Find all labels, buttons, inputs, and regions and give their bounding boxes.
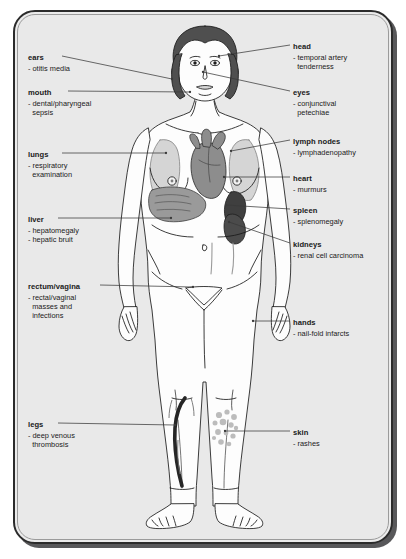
leader-dot-spleen (225, 204, 227, 206)
label-title-head: head (293, 42, 347, 51)
hand-left (119, 307, 138, 341)
label-item-lymph-nodes-0: - lymphadenopathy (293, 148, 356, 157)
label-item-eyes-0: - conjunctival (293, 99, 336, 108)
pupil-right (213, 61, 216, 64)
leader-dot-head (218, 55, 220, 57)
label-head: head- temporal arterytenderness (293, 42, 347, 71)
label-skin: skin- rashes (293, 428, 320, 448)
diagram-canvas: ears- otitis mediamouth- dental/pharynge… (0, 0, 406, 559)
leader-dot-kidneys (228, 221, 230, 223)
leader-dot-eyes (202, 71, 204, 73)
leader-dot-rectum-vagina (192, 286, 194, 288)
leader-dot-legs (174, 424, 176, 426)
mouth (197, 86, 213, 90)
label-item-rectum-vagina-1: masses and (28, 302, 80, 311)
label-title-heart: heart (293, 174, 327, 183)
label-item-mouth-1: sepsis (28, 108, 91, 117)
label-title-mouth: mouth (28, 88, 91, 97)
leader-dot-liver (170, 217, 172, 219)
anatomical-figure (118, 26, 291, 529)
leader-dot-ears (171, 78, 173, 80)
label-item-ears-0: - otitis media (28, 64, 70, 73)
label-title-spleen: spleen (293, 206, 343, 215)
label-title-rectum-vagina: rectum/vagina (28, 282, 80, 291)
hand-right (271, 307, 290, 341)
leader-dot-skin (224, 430, 226, 432)
label-lymph-nodes: lymph nodes- lymphadenopathy (293, 137, 356, 157)
label-rectum-vagina: rectum/vagina- rectal/vaginalmasses andi… (28, 282, 80, 321)
leader-dot-hands (252, 320, 254, 322)
leader-dot-mouth (189, 91, 191, 93)
aorta (202, 129, 212, 147)
label-item-rectum-vagina-0: - rectal/vaginal (28, 293, 80, 302)
label-item-spleen-0: - splenomegaly (293, 217, 343, 226)
leader-line-legs (58, 423, 175, 425)
label-legs: legs- deep venousthrombosis (28, 420, 75, 449)
label-item-liver-0: - hepatomegaly (28, 226, 79, 235)
label-item-mouth-0: - dental/pharyngeal (28, 99, 91, 108)
label-title-liver: liver (28, 215, 79, 224)
label-title-kidneys: kidneys (293, 240, 363, 249)
label-item-kidneys-0: - renal cell carcinoma (293, 251, 363, 260)
pupil-left (193, 61, 196, 64)
body-artwork (0, 0, 406, 559)
foot-left (146, 504, 194, 529)
label-title-lungs: lungs (28, 150, 72, 159)
label-item-hands-0: - nail-fold infarcts (293, 329, 349, 338)
label-item-rectum-vagina-2: infections (28, 311, 80, 320)
label-item-legs-0: - deep venous (28, 431, 75, 440)
foot-right (215, 504, 263, 529)
label-mouth: mouth- dental/pharyngealsepsis (28, 88, 91, 117)
leader-dot-lymph-nodes (230, 150, 232, 152)
label-item-lungs-0: - respiratory (28, 161, 72, 170)
leader-dot-heart (223, 176, 225, 178)
label-ears: ears- otitis media (28, 53, 70, 73)
label-item-head-0: - temporal artery (293, 53, 347, 62)
label-heart: heart- murmurs (293, 174, 327, 194)
label-lungs: lungs- respiratoryexamination (28, 150, 72, 179)
label-title-ears: ears (28, 53, 70, 62)
label-hands: hands- nail-fold infarcts (293, 318, 349, 338)
leader-line-ears (62, 56, 172, 79)
label-title-lymph-nodes: lymph nodes (293, 137, 356, 146)
label-item-liver-1: - hepatic bruit (28, 235, 79, 244)
leader-dot-lungs (165, 152, 167, 154)
label-eyes: eyes- conjunctivalpetechiae (293, 88, 336, 117)
label-item-heart-0: - murmurs (293, 185, 327, 194)
label-title-skin: skin (293, 428, 320, 437)
label-item-skin-0: - rashes (293, 439, 320, 448)
label-item-lungs-1: examination (28, 170, 72, 179)
label-liver: liver- hepatomegaly- hepatic bruit (28, 215, 79, 244)
label-title-hands: hands (293, 318, 349, 327)
label-item-eyes-1: petechiae (293, 108, 336, 117)
label-item-head-1: tenderness (293, 62, 347, 71)
label-spleen: spleen- splenomegaly (293, 206, 343, 226)
label-title-eyes: eyes (293, 88, 336, 97)
label-kidneys: kidneys- renal cell carcinoma (293, 240, 363, 260)
label-title-legs: legs (28, 420, 75, 429)
label-item-legs-1: thrombosis (28, 440, 75, 449)
